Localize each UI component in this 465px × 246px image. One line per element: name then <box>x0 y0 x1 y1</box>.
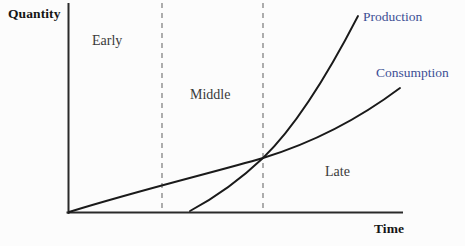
phase-label-middle: Middle <box>190 88 230 102</box>
y-axis-title: Quantity <box>8 7 61 21</box>
x-axis-title: Time <box>374 222 404 236</box>
phase-label-early: Early <box>92 34 122 48</box>
chart-canvas: Quantity Time Early Middle Late Producti… <box>0 0 465 246</box>
phase-label-late: Late <box>325 165 350 179</box>
series-label-production: Production <box>363 10 422 24</box>
series-label-consumption: Consumption <box>376 66 449 80</box>
chart-plot-area <box>0 0 465 246</box>
production-curve <box>190 16 358 211</box>
consumption-curve <box>69 88 400 212</box>
